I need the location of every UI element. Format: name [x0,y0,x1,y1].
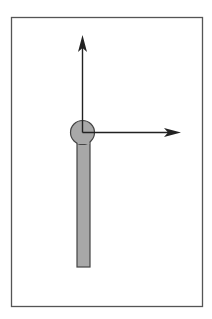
diagram-canvas [0,0,212,319]
joint-neck [78,138,90,144]
outer-frame [12,18,203,307]
link-bar [77,138,90,267]
